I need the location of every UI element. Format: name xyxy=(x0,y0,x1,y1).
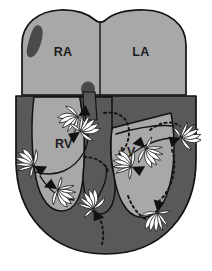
heart-vortex-diagram: RA LA RV LV xyxy=(0,0,212,271)
chamber-label-rv: RV xyxy=(55,137,73,151)
chamber-label-la: LA xyxy=(132,45,149,59)
chamber-label-ra: RA xyxy=(54,45,73,59)
atria-group: RA LA xyxy=(22,10,186,95)
atria-outline-shape xyxy=(22,10,186,95)
